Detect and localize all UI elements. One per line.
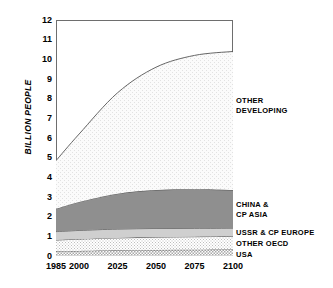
- y-tick-label-6: 6: [30, 134, 52, 143]
- series-label-other-developing: OTHER DEVELOPING: [236, 96, 288, 116]
- y-tick-label-12: 12: [30, 16, 52, 25]
- plot-area: [56, 20, 233, 256]
- series-label-usa: USA: [236, 250, 253, 260]
- series-label-china-cp-asia-line2: CP ASIA: [236, 210, 269, 220]
- y-tick-label-7: 7: [30, 114, 52, 123]
- y-axis-tick-labels: 0123456789101112: [30, 20, 52, 256]
- y-tick-label-8: 8: [30, 94, 52, 103]
- y-tick-label-0: 0: [30, 252, 52, 261]
- population-stacked-area-chart: BILLION PEOPLE 0123456789101112 19852000…: [0, 0, 333, 288]
- x-axis-tick-labels: 198520002025205020752100: [56, 261, 233, 275]
- series-label-other-oecd: OTHER OECD: [236, 239, 289, 249]
- y-tick-label-5: 5: [30, 153, 52, 162]
- y-tick-label-10: 10: [30, 55, 52, 64]
- y-tick-label-11: 11: [30, 35, 52, 44]
- y-tick-label-2: 2: [30, 212, 52, 221]
- series-label-other-developing-line1: OTHER: [236, 96, 264, 105]
- y-tick-label-4: 4: [30, 173, 52, 182]
- series-label-china-cp-asia: CHINA & CP ASIA: [236, 200, 269, 220]
- y-tick-label-1: 1: [30, 232, 52, 241]
- y-tick-label-9: 9: [30, 75, 52, 84]
- y-tick-label-3: 3: [30, 193, 52, 202]
- series-label-other-developing-line2: DEVELOPING: [236, 106, 288, 116]
- series-label-china-cp-asia-line1: CHINA &: [236, 200, 269, 209]
- series-label-group: OTHER DEVELOPING CHINA & CP ASIA USSR & …: [236, 0, 333, 288]
- series-label-ussr-cp-europe: USSR & CP EUROPE: [236, 228, 314, 238]
